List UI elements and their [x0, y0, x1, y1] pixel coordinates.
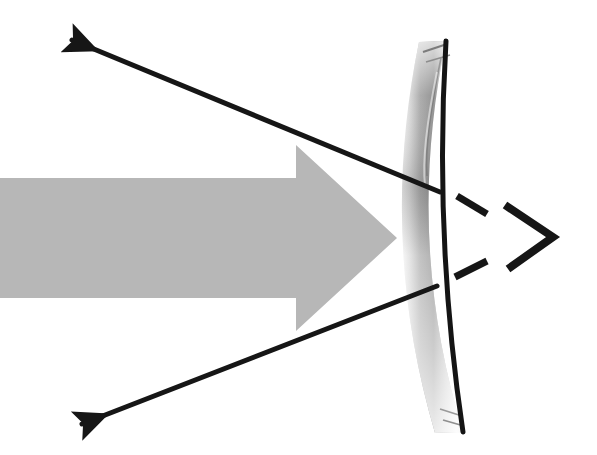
diagram-svg — [0, 0, 597, 455]
incident-beam-shape — [0, 145, 397, 331]
incident-light-beam — [0, 145, 397, 331]
dashed-extension-lower — [455, 261, 487, 277]
reflected-ray-lower — [82, 286, 437, 424]
dashed-extension-upper — [457, 196, 487, 214]
optics-diagram-canvas — [0, 0, 597, 455]
reflected-ray-upper — [72, 40, 440, 192]
focal-point-chevron — [505, 205, 553, 269]
focal-extension-dashes — [455, 196, 487, 277]
focal-chevron-shape — [505, 205, 553, 269]
